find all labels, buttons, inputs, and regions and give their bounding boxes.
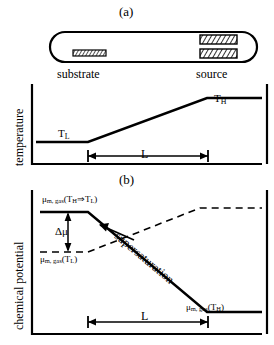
substrate-label: substrate [57,68,100,80]
temperature-th-label: TH [214,93,226,106]
mu-subscript-right: m, gas [191,305,208,312]
th-subscript: H [221,97,227,106]
delta-mu-label: Δμ [55,226,68,237]
source-block-lower [200,49,237,58]
mu-subscript-top: m, gas [47,197,64,204]
mu-close-low: ) [74,254,77,264]
tl-symbol: T [58,127,65,139]
mu-close-top: ) [94,194,97,204]
tl-subscript: L [65,132,70,141]
source-block-upper [200,35,237,44]
mu-high-to-low-label: μm, gas(TH⇒TL) [42,195,97,205]
mu-arg-right: (T [208,302,217,312]
temperature-length-label: L [141,148,148,160]
temperature-profile-curve [36,98,262,142]
mu-close-right: ) [221,302,224,312]
figure-root: (a) substrate source temperature [0,0,274,345]
ampoule-schematic [48,30,263,68]
mu-subscript-low: m, gas [45,257,62,264]
panel-b-caption: (b) [119,172,134,188]
source-label: source [196,68,227,80]
mu-arrow-top: ⇒T [77,194,91,204]
th-symbol: T [214,92,221,104]
temperature-tl-label: TL [58,128,70,141]
mu-arg-top: (T [64,194,73,204]
mu-arg-low: (T [62,254,71,264]
mu-high-label: μm, gas(TH) [186,303,224,313]
mu-low-label: μm, gas(TL) [40,255,77,265]
panel-a-caption: (a) [119,4,133,20]
chemical-potential-length-label: L [141,310,148,322]
substrate-block [73,50,106,56]
mu-equilibrium-curve [40,208,262,252]
